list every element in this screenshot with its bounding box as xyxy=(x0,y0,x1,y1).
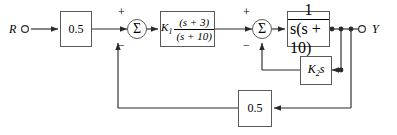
output-label: Y xyxy=(372,22,379,37)
junction-dot-k2s-in xyxy=(339,68,344,73)
summing-junction-first[interactable]: Σ xyxy=(127,19,147,39)
input-gain-block[interactable]: 0.5 xyxy=(60,11,92,47)
plant-denominator: s(s + 10) xyxy=(288,19,329,57)
sigma-symbol-first: Σ xyxy=(133,21,141,37)
junction-dot-inner xyxy=(339,27,344,32)
sign-plus-second: + xyxy=(243,6,250,18)
controller-gain: K1 xyxy=(161,21,172,36)
block-diagram: R Y 0.5 K1 (s + 3) (s + 10) 1 s(s + 10) … xyxy=(0,0,397,135)
output-feedback-label: 0.5 xyxy=(248,101,263,116)
controller-denominator: (s + 10) xyxy=(174,29,214,43)
controller-transfer-function: (s + 3) (s + 10) xyxy=(174,16,214,42)
controller-numerator: (s + 3) xyxy=(177,16,211,29)
junction-dot-plant-out xyxy=(330,27,335,32)
controller-block[interactable]: K1 (s + 3) (s + 10) xyxy=(160,11,215,47)
summing-junction-second[interactable]: Σ xyxy=(252,19,272,39)
junction-dot-outer xyxy=(349,27,354,32)
sign-minus-first: − xyxy=(118,39,125,51)
sign-plus-first: + xyxy=(118,6,125,18)
plant-block[interactable]: 1 s(s + 10) xyxy=(287,11,330,47)
input-label: R xyxy=(9,22,16,37)
sigma-symbol-second: Σ xyxy=(258,21,266,37)
input-gain-label: 0.5 xyxy=(69,22,84,37)
plant-numerator: 1 xyxy=(303,1,315,19)
output-feedback-block[interactable]: 0.5 xyxy=(238,90,272,127)
sign-minus-second: − xyxy=(243,39,250,51)
plant-transfer-function: 1 s(s + 10) xyxy=(288,1,329,57)
rate-feedback-label: K2s xyxy=(308,62,325,78)
rate-feedback-block[interactable]: K2s xyxy=(300,56,332,85)
input-terminal xyxy=(22,26,29,33)
output-terminal xyxy=(359,26,366,33)
